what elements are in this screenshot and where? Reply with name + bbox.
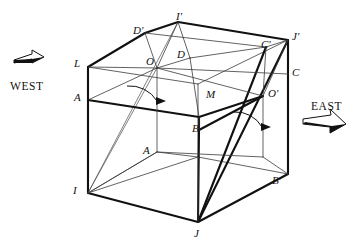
inner-box (88, 33, 288, 193)
vertex-label-I: I (73, 185, 77, 196)
east-direction-label: EAST (311, 101, 342, 113)
cube-diagram-svg: .thick { stroke:#111111; stroke-width:2.… (0, 0, 362, 249)
west-arrow-icon (14, 50, 44, 63)
vertex-label-M: M (206, 89, 215, 100)
angle-at-O (127, 86, 166, 105)
vertex-label-O-prime: O' (268, 88, 278, 99)
vertex-label-A-lower: A (143, 145, 150, 156)
east-arrow-icon (303, 109, 346, 133)
vertex-label-D: D (177, 49, 185, 60)
west-direction-label: WEST (10, 81, 44, 93)
vertex-label-J-prime: J' (292, 31, 299, 42)
vertex-label-A-upper: A (74, 92, 81, 103)
vertex-label-B-prime: B' (272, 175, 281, 186)
vertex-label-L: L (74, 58, 80, 69)
vertex-label-O: O (146, 56, 154, 67)
vertex-label-I-prime: I' (176, 11, 182, 22)
vertex-label-C: C (292, 67, 299, 78)
vertex-label-B: B (192, 123, 199, 134)
vertex-label-D-prime: D' (133, 25, 143, 36)
vertex-label-J: J (194, 228, 199, 239)
diagram-canvas: .thick { stroke:#111111; stroke-width:2.… (0, 0, 362, 249)
vertex-label-C-prime: C' (261, 39, 271, 50)
